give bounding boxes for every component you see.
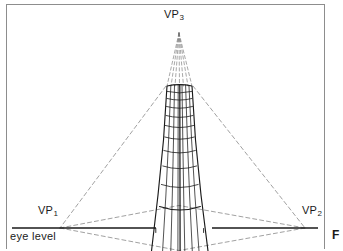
figure-page: VP3 VP1 VP2 eye level F: [0, 0, 343, 251]
vp3-convergence-lines: [167, 33, 192, 86]
vp2-text: VP: [302, 204, 317, 216]
vanishing-point-1-label: VP1: [38, 204, 58, 216]
vp1-subscript: 1: [53, 209, 58, 218]
vanishing-point-2-label: VP2: [302, 204, 322, 216]
vp3-subscript: 3: [179, 13, 184, 22]
figure-caption-marker: F: [332, 228, 339, 242]
vp3-text: VP: [164, 8, 179, 20]
eye-level-label: eye level: [10, 230, 56, 242]
vanishing-point-3-label: VP3: [164, 8, 184, 20]
vp2-subscript: 2: [317, 209, 322, 218]
vp1-text: VP: [38, 204, 53, 216]
